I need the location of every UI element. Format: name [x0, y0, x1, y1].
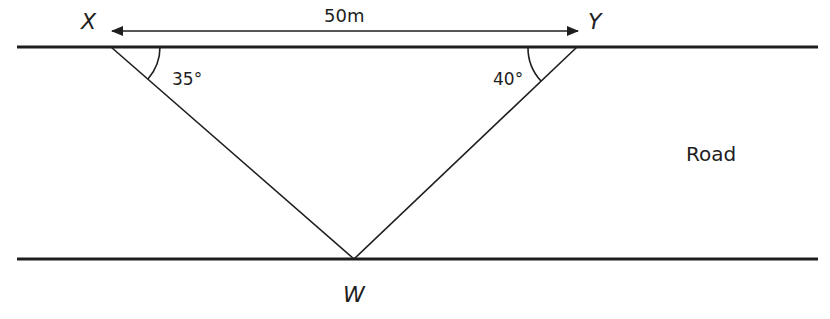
line-xw: [111, 47, 354, 259]
line-yw: [354, 47, 577, 259]
point-label-y: Y: [588, 11, 601, 33]
distance-label: 50m: [324, 7, 364, 25]
angle-label-x: 35°: [172, 71, 202, 88]
point-label-x: X: [81, 11, 96, 33]
point-label-w: W: [343, 284, 365, 306]
angle-label-y: 40°: [493, 71, 523, 88]
angle-arc-y: [528, 47, 541, 81]
road-label: Road: [686, 144, 736, 164]
angle-arc-x: [148, 47, 160, 79]
